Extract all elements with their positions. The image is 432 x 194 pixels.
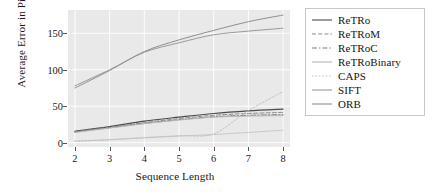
x-tick-mark <box>179 147 180 151</box>
legend-label: ORB <box>338 97 361 111</box>
x-tick-mark <box>283 147 284 151</box>
legend-label: ReTRoBinary <box>338 55 401 69</box>
x-axis-label: Sequence Length <box>55 170 295 182</box>
y-tick-label: 50 <box>33 101 63 112</box>
legend-label: ReTRo <box>338 13 370 27</box>
legend-label: ReTRoC <box>338 41 378 55</box>
legend-item[interactable]: ReTRoM <box>311 27 420 41</box>
legend-line-swatch <box>311 84 333 96</box>
y-tick-mark <box>63 33 67 34</box>
y-axis-label: Average Error in Pixels <box>15 0 27 99</box>
y-tick-mark <box>63 70 67 71</box>
legend-item[interactable]: ReTRo <box>311 13 420 27</box>
legend-item[interactable]: SIFT <box>311 83 420 97</box>
y-tick-mark <box>63 106 67 107</box>
legend-line-swatch <box>311 98 333 110</box>
y-tick-label: 100 <box>33 64 63 75</box>
legend-line-swatch <box>311 14 333 26</box>
y-tick-label: 150 <box>33 28 63 39</box>
legend-item[interactable]: ReTRoC <box>311 41 420 55</box>
legend-line-swatch <box>311 70 333 82</box>
chart-legend: ReTRoReTRoMReTRoCReTRoBinaryCAPSSIFTORB <box>305 8 425 116</box>
legend-label: CAPS <box>338 69 366 83</box>
legend-line-swatch <box>311 42 333 54</box>
x-tick-label: 8 <box>271 153 295 164</box>
legend-item[interactable]: CAPS <box>311 69 420 83</box>
chart-figure: Average Error in Pixels 050100150 234567… <box>0 0 432 194</box>
x-tick-label: 2 <box>63 153 87 164</box>
plot-lines <box>68 10 290 147</box>
x-tick-label: 3 <box>98 153 122 164</box>
legend-label: ReTRoM <box>338 27 380 41</box>
legend-item[interactable]: ReTRoBinary <box>311 55 420 69</box>
x-tick-mark <box>75 147 76 151</box>
x-tick-label: 4 <box>132 153 156 164</box>
plot-panel <box>68 10 290 147</box>
legend-line-swatch <box>311 56 333 68</box>
legend-label: SIFT <box>338 83 361 97</box>
x-tick-mark <box>248 147 249 151</box>
legend-line-swatch <box>311 28 333 40</box>
y-tick-label: 0 <box>33 137 63 148</box>
x-tick-label: 5 <box>167 153 191 164</box>
y-axis-tick-labels: 050100150 <box>30 10 63 147</box>
x-axis-tick-labels: 2345678 <box>68 147 290 169</box>
x-tick-label: 7 <box>236 153 260 164</box>
x-tick-mark <box>110 147 111 151</box>
y-tick-mark <box>63 143 67 144</box>
x-tick-label: 6 <box>202 153 226 164</box>
legend-item[interactable]: ORB <box>311 97 420 111</box>
x-tick-mark <box>144 147 145 151</box>
x-tick-mark <box>214 147 215 151</box>
